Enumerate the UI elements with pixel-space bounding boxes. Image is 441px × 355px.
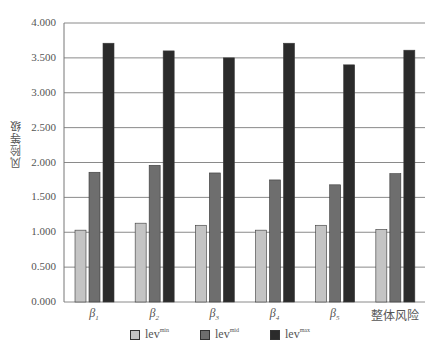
bar-mid-3 (209, 173, 220, 302)
bar-max-4 (284, 43, 295, 302)
legend-label: levmid (215, 327, 239, 342)
y-tick-label: 3.000 (4, 86, 56, 98)
bar-mid-6 (390, 174, 401, 302)
y-tick-label: 1.000 (4, 225, 56, 237)
y-tick-label: 2.500 (4, 121, 56, 133)
legend-swatch (270, 330, 280, 340)
x-tick-label: β2 (124, 306, 184, 322)
y-tick-label: 0.500 (4, 260, 56, 272)
legend-swatch (130, 330, 140, 340)
y-tick-label: 3.500 (4, 51, 56, 63)
y-tick-label: 4.000 (4, 16, 56, 28)
bar-min-1 (75, 230, 86, 302)
y-tick-label: 0.000 (4, 295, 56, 307)
x-tick-label: 整体风险 (365, 306, 425, 324)
bar-max-3 (223, 58, 234, 302)
bar-max-1 (103, 43, 114, 302)
bar-mid-1 (89, 172, 100, 302)
x-tick-label: β5 (305, 306, 365, 322)
bar-mid-4 (270, 180, 281, 302)
bar-min-5 (316, 225, 327, 302)
legend-label: levmax (285, 327, 310, 342)
plot-area (0, 0, 441, 355)
bar-min-3 (195, 225, 206, 302)
x-tick-label: β4 (245, 306, 305, 322)
legend-item-min: levmin (130, 327, 169, 342)
x-tick-label: β1 (64, 306, 124, 322)
bar-max-2 (163, 51, 174, 302)
bar-min-2 (135, 223, 146, 302)
y-tick-label: 2.000 (4, 156, 56, 168)
legend-swatch (200, 330, 210, 340)
legend-item-mid: levmid (200, 327, 239, 342)
y-tick-label: 1.500 (4, 190, 56, 202)
legend-label: levmin (145, 327, 169, 342)
bar-mid-5 (330, 185, 341, 302)
bar-chart: 风险等级 0.0000.5001.0001.5002.0002.5003.000… (0, 0, 441, 355)
bar-max-5 (344, 65, 355, 302)
x-tick-label: β3 (184, 306, 244, 322)
bar-min-4 (256, 230, 267, 302)
bar-max-6 (404, 50, 415, 302)
legend: levminlevmidlevmax (0, 327, 441, 347)
legend-item-max: levmax (270, 327, 310, 342)
bar-min-6 (376, 229, 387, 302)
bar-mid-2 (149, 165, 160, 302)
